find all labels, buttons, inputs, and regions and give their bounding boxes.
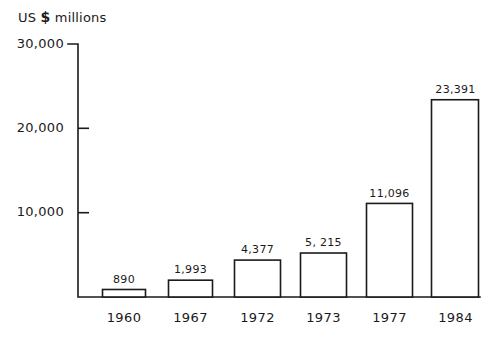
xtick-label-1972: 1972: [227, 310, 288, 325]
ytick-label-30000: 30,000: [0, 36, 64, 51]
bar-chart: US $ millions 30,000 20,000 10,000 890 1…: [0, 0, 491, 343]
xtick-label-1984: 1984: [425, 310, 486, 325]
xtick-label-1960: 1960: [94, 310, 154, 325]
axis-lines: [68, 44, 480, 297]
xtick-label-1977: 1977: [359, 310, 420, 325]
bar-value-1967: 1,993: [160, 263, 221, 276]
bar-1984: [432, 100, 479, 297]
bar-value-1984: 23,391: [425, 83, 486, 96]
bar-value-1973: 5, 215: [293, 236, 354, 249]
bar-1973: [301, 253, 347, 297]
bar-value-1977: 11,096: [359, 187, 420, 200]
ytick-label-10000: 10,000: [0, 204, 64, 219]
bar-1972: [235, 260, 281, 297]
bar-1960: [103, 289, 146, 297]
bar-value-1972: 4,377: [227, 243, 288, 256]
xtick-label-1967: 1967: [160, 310, 221, 325]
ytick-label-20000: 20,000: [0, 120, 64, 135]
bar-1967: [169, 280, 213, 297]
bar-value-1960: 890: [94, 273, 154, 286]
bar-1977: [367, 203, 413, 297]
xtick-label-1973: 1973: [293, 310, 354, 325]
plot-area: [0, 0, 491, 343]
